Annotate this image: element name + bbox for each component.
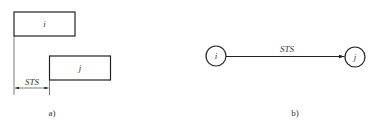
node-j-label: j [353,52,357,62]
caption-b: b) [291,108,299,118]
panel-b: i j STS b) [206,44,365,118]
diagram-canvas: i j STS a) i j STS b) [0,0,383,128]
sts-edge-label: STS [280,44,295,54]
panel-a: i j STS a) [14,12,111,118]
sts-dimension-label: STS [25,77,40,87]
activity-j-label: j [78,63,82,73]
caption-a: a) [49,108,56,118]
